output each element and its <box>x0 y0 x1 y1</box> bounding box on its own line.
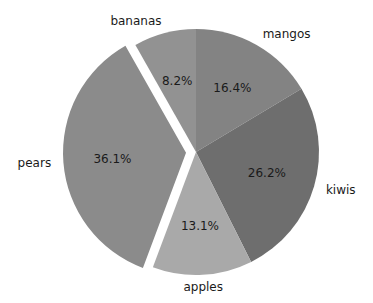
slice-label-mangos: mangos <box>263 27 311 41</box>
pie-chart: 16.4%mangos26.2%kiwis13.1%apples36.1%pea… <box>0 0 373 303</box>
slice-percent-kiwis: 26.2% <box>248 166 286 180</box>
slice-label-pears: pears <box>18 156 52 170</box>
slice-label-apples: apples <box>183 280 223 294</box>
slice-percent-bananas: 8.2% <box>162 74 193 88</box>
slice-percent-apples: 13.1% <box>181 219 219 233</box>
slice-label-kiwis: kiwis <box>326 183 356 197</box>
slice-percent-pears: 36.1% <box>93 152 131 166</box>
slice-label-bananas: bananas <box>110 14 161 28</box>
slice-percent-mangos: 16.4% <box>213 81 251 95</box>
